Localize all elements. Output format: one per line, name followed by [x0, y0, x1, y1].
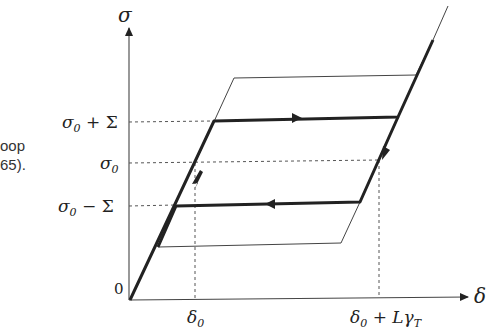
arrow-up-icon	[192, 170, 203, 190]
y-tick-sigma0-plus-Sigma: σ0 + Σ	[62, 112, 118, 135]
hysteresis-loop	[130, 40, 433, 300]
x-axis-label: δ	[474, 284, 486, 308]
arrow-down-icon	[382, 146, 390, 160]
x-axis	[129, 297, 468, 300]
arrow-right-icon	[292, 113, 302, 123]
arrow-left-icon	[265, 199, 275, 209]
origin-label: 0	[114, 280, 124, 298]
x-tick-delta0: δ0	[187, 307, 204, 330]
outer-envelope	[158, 6, 448, 247]
dashed-guides	[129, 121, 380, 300]
y-axis-label: σ	[118, 3, 133, 27]
y-tick-sigma0-minus-Sigma: σ0 − Σ	[58, 196, 114, 219]
x-tick-delta0-plus-L-gammaT: δ0 + LγT	[350, 307, 423, 330]
hysteresis-diagram: σ δ 0 σ0 + Σ σ0 σ0 − Σ δ0 δ0 + LγT	[0, 0, 496, 330]
y-tick-sigma0: σ0	[100, 153, 119, 176]
